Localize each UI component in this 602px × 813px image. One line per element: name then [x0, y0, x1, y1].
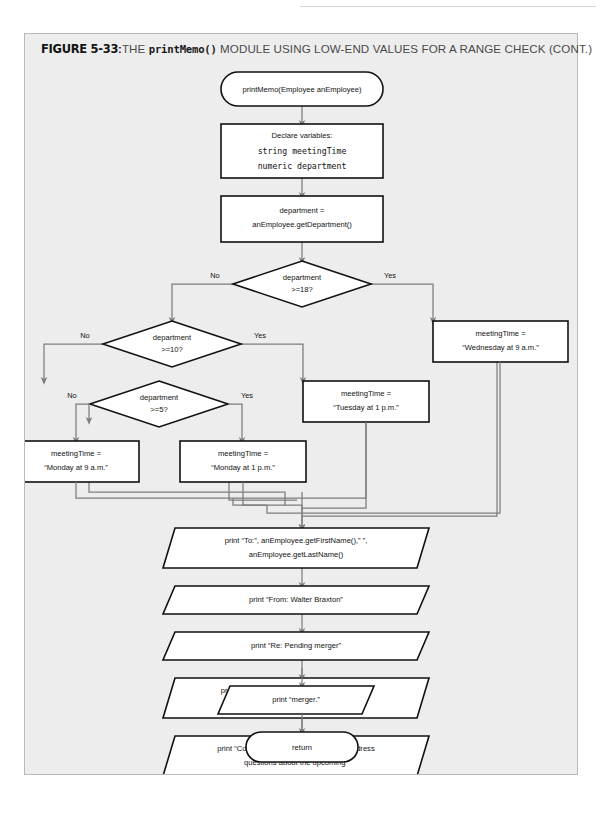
node-decision-5: department >=5? No Yes: [67, 381, 253, 427]
print-body-3-line-1: print “merger.”: [272, 695, 320, 704]
decision-5-line-1: department: [140, 393, 179, 402]
decision-18-line-1: department: [283, 273, 322, 282]
decision-18-line-2: >=18?: [291, 285, 313, 294]
rail-from-monday-1pm: [243, 482, 267, 505]
node-return: return: [246, 732, 358, 762]
monday-9am-line-2: “Monday at 9 a.m.”: [44, 463, 108, 472]
decision-10-no-label: No: [80, 331, 89, 340]
edge-dec5-yes-final: [228, 404, 242, 441]
node-tuesday: meetingTime = “Tuesday at 1 p.m.”: [303, 381, 429, 422]
start-terminator-label: printMemo(Employee anEmployee): [242, 85, 361, 94]
print-to-output-shape: [163, 528, 429, 568]
decision-5-line-2: >=5?: [150, 405, 167, 414]
monday-9am-process-shape: [25, 441, 139, 482]
node-start: printMemo(Employee anEmployee): [221, 72, 383, 106]
getdept-line-2: anEmployee.getDepartment(): [252, 220, 352, 229]
decision-18-shape: [233, 261, 371, 307]
node-declare: Declare variables: string meetingTime nu…: [221, 124, 383, 178]
caption-code: printMemo(): [149, 43, 217, 55]
decision-10-line-1: department: [153, 333, 192, 342]
declare-line-3: numeric department: [258, 161, 347, 171]
page-top-rule: [300, 6, 596, 7]
declare-line-1: Declare variables:: [272, 131, 333, 140]
decision-5-shape: [90, 381, 228, 427]
node-print-to: print “To:”, anEmployee.getFirstName(),”…: [163, 528, 429, 568]
monday-1pm-line-1: meetingTime =: [218, 449, 269, 458]
edge-dec10-yes: [241, 344, 303, 381]
tuesday-line-2: “Tuesday at 1 p.m.”: [333, 403, 399, 412]
getdept-line-1: department =: [280, 206, 326, 215]
print-from-line-1: print “From: Walter Braxton”: [249, 595, 343, 604]
declare-line-2: string meetingTime: [258, 146, 347, 156]
node-print-re: print “Re: Pending merger”: [163, 632, 429, 660]
node-monday-9am: meetingTime = “Monday at 9 a.m.”: [25, 441, 139, 482]
monday-1pm-line-2: “Monday at 1 p.m.”: [211, 463, 275, 472]
wednesday-line-1: meetingTime =: [475, 329, 526, 338]
figure-frame: FIGURE 5-33:THE printMemo() MODULE USING…: [24, 33, 578, 775]
edge-dec10-no: [44, 344, 103, 381]
decision-10-line-2: >=10?: [161, 345, 183, 354]
monday-1pm-process-shape: [180, 441, 306, 482]
figure-number: FIGURE 5-33: [41, 42, 118, 56]
tuesday-process-shape: [303, 381, 429, 422]
node-print-body-3: print “merger.”: [218, 686, 374, 714]
decision-10-yes-label: Yes: [254, 331, 266, 340]
print-to-line-2: anEmployee.getLastName(): [249, 550, 344, 559]
decision-18-no-label: No: [210, 271, 219, 280]
rail-join-lower: [267, 505, 302, 513]
return-terminator-label: return: [292, 743, 312, 752]
page-canvas: FIGURE 5-33:THE printMemo() MODULE USING…: [0, 0, 602, 813]
edge-dec5-no-final: [76, 404, 90, 441]
edge-dec18-yes: [371, 284, 433, 321]
node-getdept: department = anEmployee.getDepartment(): [221, 196, 383, 242]
wednesday-line-2: “Wednesday at 9 a.m.”: [462, 343, 539, 352]
print-re-line-1: print “Re: Pending merger”: [251, 641, 341, 650]
monday-9am-line-1: meetingTime =: [51, 449, 102, 458]
print-to-line-1: print “To:”, anEmployee.getFirstName(),”…: [225, 536, 368, 545]
decision-5-no-label: No: [67, 391, 76, 400]
edge-tue-merge: [302, 422, 366, 508]
flowchart-lower: print “merger.” return: [25, 666, 579, 776]
node-wednesday: meetingTime = “Wednesday at 9 a.m.”: [433, 321, 568, 362]
caption-text-after: MODULE USING LOW-END VALUES FOR A RANGE …: [217, 42, 592, 55]
decision-10-shape: [103, 321, 241, 367]
node-decision-10: department >=10? No Yes: [80, 321, 266, 367]
wednesday-process-shape: [433, 321, 568, 362]
caption-text-before: THE: [122, 42, 149, 55]
tuesday-line-1: meetingTime =: [341, 389, 392, 398]
rail-from-monday-9am: [76, 482, 233, 498]
getdept-process-shape: [221, 196, 383, 242]
edge-dec18-no: [172, 284, 233, 321]
node-decision-18: department >=18? No Yes: [210, 261, 396, 307]
node-monday-1pm: meetingTime = “Monday at 1 p.m.”: [180, 441, 306, 482]
node-print-from: print “From: Walter Braxton”: [163, 586, 429, 614]
decision-18-yes-label: Yes: [384, 271, 396, 280]
decision-5-yes-label: Yes: [241, 391, 253, 400]
connector-layer-2: [25, 58, 103, 421]
